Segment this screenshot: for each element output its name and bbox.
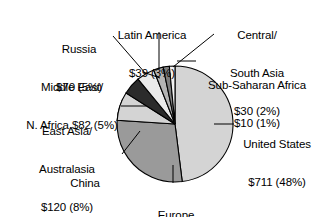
pie-label-united-states: United States $711 (48%) [234,113,320,214]
pie-label-united-states-value: $711 (48%) [234,176,320,189]
pie-label-latin-america-name: Latin America [104,29,200,42]
pie-label-europe: Europe $289 (20%) [128,184,224,217]
pie-chart-figure: Russia $70 (5%) Latin America $39 (3%) C… [0,0,321,217]
pie-label-china: China $122 (8%) [40,152,130,217]
pie-label-china-name: China [40,177,130,190]
pie-label-sub-saharan-africa-name: Sub-Saharan Africa [196,79,318,92]
pie-label-east-asia-name-line1: East Asia/ [14,125,120,138]
pie-label-central-south-asia-name-line1: Central/ [214,29,300,42]
pie-label-united-states-name: United States [234,138,320,151]
pie-label-middle-east-name: Middle East/ [2,81,142,94]
pie-label-europe-name: Europe [128,209,224,217]
pie-label-china-value: $122 (8%) [40,215,130,217]
